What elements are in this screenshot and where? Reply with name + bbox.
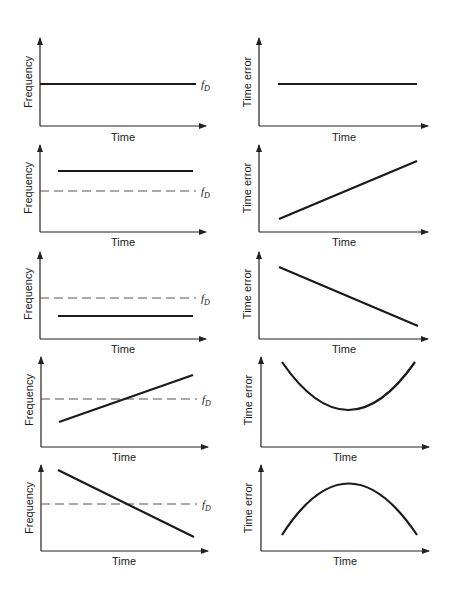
x-axis-label: Time — [332, 236, 356, 248]
x-axis-label: Time — [111, 343, 135, 355]
fd-label: fD — [202, 498, 211, 513]
fd-label: fD — [201, 185, 210, 200]
y-axis-label: Time error — [242, 483, 254, 534]
panel-row4-left: fD Frequency Time — [23, 357, 211, 463]
figure-caption — [40, 588, 420, 598]
y-axis-label: Frequency — [22, 268, 34, 320]
y-axis-label: Time error — [242, 375, 254, 426]
y-axis-label: Time error — [241, 163, 253, 214]
x-axis-label: Time — [332, 343, 356, 355]
x-axis-label: Time — [111, 236, 135, 248]
x-axis-label: Time — [333, 555, 357, 567]
x-axis-label: Time — [112, 451, 136, 463]
fd-label: fD — [201, 78, 210, 93]
x-axis-label: Time — [333, 451, 357, 463]
panel-row5-left: fD Frequency Time — [23, 465, 211, 567]
fd-label: fD — [201, 292, 210, 307]
panel-row1-left: fD Frequency Time — [22, 38, 210, 143]
panel-row5-right: Time error Time — [242, 465, 429, 567]
x-axis-label: Time — [332, 131, 356, 143]
figure-grid: fD Frequency Time Time error Time fD Fre… — [0, 0, 453, 598]
y-axis-label: Frequency — [22, 162, 34, 214]
fd-label: fD — [202, 393, 211, 408]
panel-row1-right: Time error Time — [241, 38, 428, 143]
time-error-curve — [282, 484, 417, 536]
panel-row3-right: Time error Time — [241, 252, 428, 355]
x-axis-label: Time — [111, 131, 135, 143]
panel-row2-left: fD Frequency Time — [22, 145, 210, 248]
time-error-line — [279, 161, 417, 219]
y-axis-label: Frequency — [23, 374, 35, 426]
panel-row3-left: fD Frequency Time — [22, 252, 210, 355]
time-error-line — [279, 267, 418, 326]
panel-row2-right: Time error Time — [241, 145, 428, 248]
x-axis-label: Time — [112, 555, 136, 567]
y-axis-label: Frequency — [22, 56, 34, 108]
y-axis-label: Frequency — [23, 482, 35, 534]
y-axis-label: Time error — [241, 57, 253, 108]
time-error-curve — [282, 362, 415, 410]
panel-row4-right: Time error Time — [242, 357, 429, 463]
y-axis-label: Time error — [241, 269, 253, 320]
